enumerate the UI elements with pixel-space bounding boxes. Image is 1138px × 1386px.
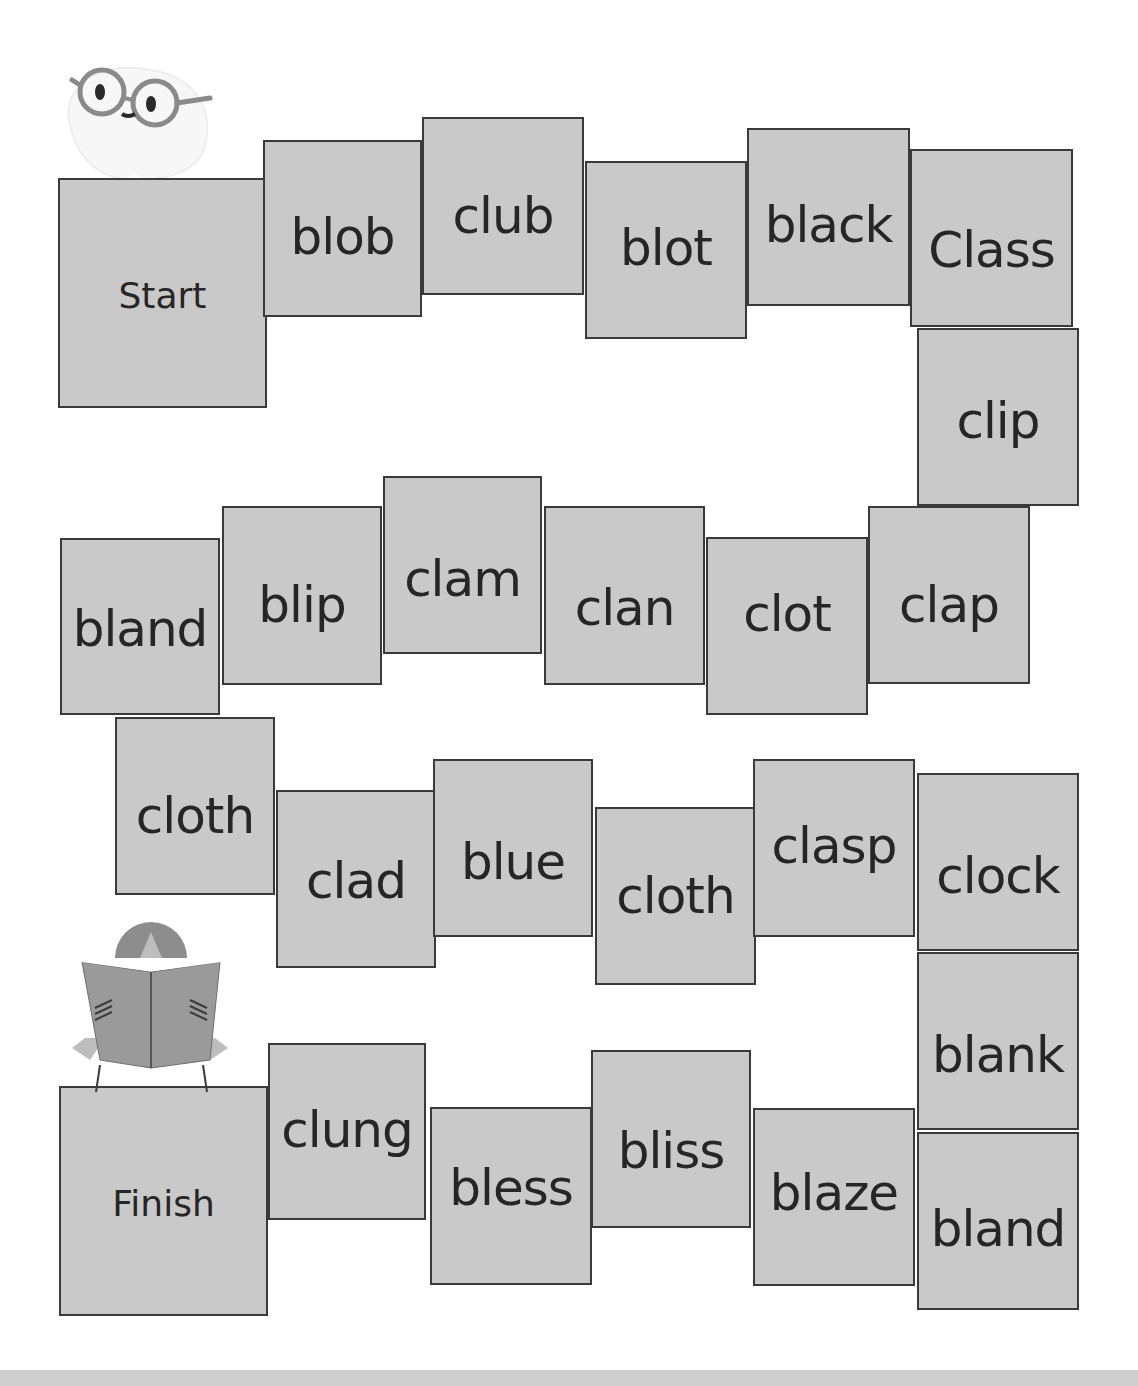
tile-word: bless bbox=[432, 1163, 590, 1213]
tile-word: clam bbox=[385, 554, 540, 604]
game-board: Start blob club blot black Class clip cl… bbox=[0, 0, 1138, 1386]
tile-word: blob bbox=[265, 212, 420, 262]
tile-bliss[interactable]: bliss bbox=[591, 1050, 751, 1228]
page-bottom-edge bbox=[0, 1370, 1138, 1386]
tile-word: clock bbox=[919, 851, 1077, 901]
tile-word: clot bbox=[708, 589, 866, 639]
tile-word: bliss bbox=[593, 1126, 749, 1176]
tile-clock[interactable]: clock bbox=[917, 773, 1079, 951]
tile-cloth-2[interactable]: cloth bbox=[595, 807, 756, 985]
tile-word: blue bbox=[435, 837, 591, 887]
tile-clung[interactable]: clung bbox=[268, 1043, 426, 1220]
tile-word: clip bbox=[919, 396, 1077, 446]
tile-word: clasp bbox=[755, 821, 913, 871]
child-reading-book-icon bbox=[60, 920, 230, 1095]
tile-word: bland bbox=[62, 604, 218, 654]
tile-class[interactable]: Class bbox=[910, 149, 1073, 327]
tile-black[interactable]: black bbox=[747, 128, 910, 306]
start-label: Start bbox=[60, 278, 265, 314]
tile-word: cloth bbox=[597, 871, 754, 921]
tile-clip[interactable]: clip bbox=[917, 328, 1079, 506]
tile-clot[interactable]: clot bbox=[706, 537, 868, 715]
tile-clam[interactable]: clam bbox=[383, 476, 542, 654]
tile-bland-2[interactable]: bland bbox=[917, 1132, 1079, 1310]
tile-blot[interactable]: blot bbox=[585, 161, 747, 339]
finish-tile[interactable]: Finish bbox=[59, 1086, 268, 1316]
tile-word: clap bbox=[870, 580, 1028, 630]
tile-cloth-1[interactable]: cloth bbox=[115, 717, 275, 895]
tile-word: clung bbox=[270, 1105, 424, 1155]
tile-word: bland bbox=[919, 1204, 1077, 1254]
tile-word: club bbox=[424, 191, 582, 241]
tile-word: blot bbox=[587, 223, 745, 273]
tile-word: clan bbox=[546, 583, 703, 633]
tile-word: blip bbox=[224, 580, 380, 630]
tile-clap[interactable]: clap bbox=[868, 506, 1030, 684]
tile-club[interactable]: club bbox=[422, 117, 584, 295]
tile-clasp[interactable]: clasp bbox=[753, 759, 915, 937]
tile-word: cloth bbox=[117, 791, 273, 841]
tile-clan[interactable]: clan bbox=[544, 506, 705, 685]
tile-blaze[interactable]: blaze bbox=[753, 1108, 915, 1286]
tile-bland-1[interactable]: bland bbox=[60, 538, 220, 715]
tile-word: blaze bbox=[755, 1168, 913, 1218]
tile-bless[interactable]: bless bbox=[430, 1107, 592, 1285]
tile-word: clad bbox=[278, 856, 434, 906]
tile-blob[interactable]: blob bbox=[263, 140, 422, 317]
start-tile[interactable]: Start bbox=[58, 178, 267, 408]
tile-clad[interactable]: clad bbox=[276, 790, 436, 968]
tile-blip[interactable]: blip bbox=[222, 506, 382, 685]
tile-word: Class bbox=[912, 225, 1071, 275]
tile-word: blank bbox=[919, 1030, 1077, 1080]
tile-blank[interactable]: blank bbox=[917, 952, 1079, 1130]
finish-label: Finish bbox=[61, 1186, 266, 1222]
tile-blue[interactable]: blue bbox=[433, 759, 593, 937]
tile-word: black bbox=[749, 200, 908, 250]
